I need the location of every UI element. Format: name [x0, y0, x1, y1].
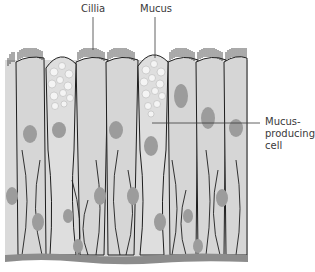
mucus-cell-label-line3: cell [265, 140, 315, 152]
mucus-cell-label: Mucus- producing cell [265, 116, 315, 152]
mucus-cell-label-line2: producing [265, 128, 315, 140]
mucus-cell-label-line1: Mucus- [265, 116, 315, 128]
cilia-label: Cillia [81, 3, 105, 15]
mucus-label: Mucus [140, 3, 172, 15]
